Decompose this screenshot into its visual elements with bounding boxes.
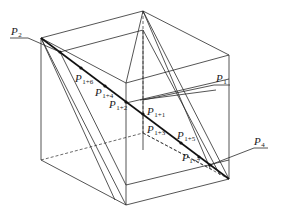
label-p1-1: P1+1 [147,106,165,119]
diagonal-left-2 [60,52,126,185]
inner-plane [60,30,229,185]
diagonal-left-3 [41,38,115,200]
point-p4 [208,163,211,166]
main-diagonal [41,38,229,179]
cube-diagram [0,0,281,214]
label-p1-5: P1+5 [177,130,195,143]
label-p2: P2 [11,26,22,39]
diagonal-left-1 [41,38,126,205]
label-p1-6: P1+6 [75,73,93,86]
label-p4: P4 [254,136,265,149]
inner-top-edge [60,30,143,52]
point-p2 [58,50,61,53]
diagonal-top-right [126,11,143,83]
point-p1-1 [141,112,144,115]
label-p1: P1 [216,73,227,86]
point-p1-6 [79,66,82,69]
label-p1-2: P1+2 [109,99,127,112]
label-p1-7: P1+7 [182,152,200,165]
diagonal-right-3 [143,11,210,168]
label-p1-3: P1+3 [147,124,165,137]
hidden-edges [41,11,229,179]
hidden-back-left-bottom [41,133,143,160]
leader-p2 [10,38,60,52]
cube-top-back-edges [41,11,229,55]
